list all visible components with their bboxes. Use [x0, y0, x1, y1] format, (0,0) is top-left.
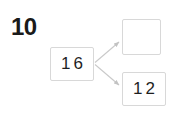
part-value-text: 12	[130, 80, 158, 98]
part-value-box[interactable]: 12	[122, 72, 166, 106]
item-number-label: 10	[11, 14, 37, 40]
arrow-to-empty-box	[95, 42, 119, 63]
diagram-canvas: 10 16 12	[0, 0, 182, 117]
whole-value-box[interactable]: 16	[50, 47, 94, 81]
arrow-to-filled-box	[95, 65, 119, 86]
empty-answer-box[interactable]	[122, 19, 161, 55]
whole-value-text: 16	[58, 55, 86, 73]
